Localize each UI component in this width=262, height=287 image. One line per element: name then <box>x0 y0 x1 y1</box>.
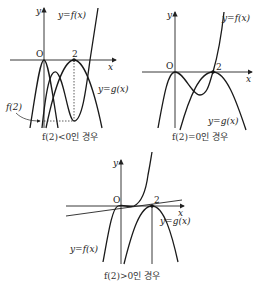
x-axis-label: x <box>246 74 251 84</box>
caption: f(2)=0인 경우 <box>172 131 228 142</box>
panel-f2-negative: y x O 2 y=f(x) y=g(x) f(2) f(2)<0인 경우 <box>5 6 129 142</box>
g-label: y=g(x) <box>207 116 239 126</box>
f-label: y=f(x) <box>221 13 251 23</box>
tangent-line <box>66 200 182 216</box>
y-axis-label: y <box>35 6 42 16</box>
tick-label-2: 2 <box>154 195 160 205</box>
tick-label-2: 2 <box>216 62 222 72</box>
tick-label-2: 2 <box>72 49 78 59</box>
g-label: y=g(x) <box>97 84 129 94</box>
panel-f2-zero: y x O 2 y=f(x) y=g(x) f(2)=0인 경우 <box>142 10 252 142</box>
panel-f2-positive: y x O 2 y=g(x) y=f(x) f(2)>0인 경우 <box>66 152 191 281</box>
origin-label: O <box>113 195 120 205</box>
caption: f(2)>0인 경우 <box>104 270 160 281</box>
g-curve <box>124 206 178 264</box>
y-axis-label: y <box>166 10 173 20</box>
origin-label: O <box>36 49 43 59</box>
f-curve <box>103 152 152 262</box>
f2-arrow <box>16 113 40 121</box>
diagram-canvas: y x O 2 y=f(x) y=g(x) f(2) f(2)<0인 경우 y … <box>0 0 262 287</box>
y-axis-label: y <box>112 158 119 168</box>
caption: f(2)<0인 경우 <box>42 131 98 142</box>
f-label: y=f(x) <box>69 244 99 254</box>
f2-label: f(2) <box>5 102 23 112</box>
g-label: y=g(x) <box>159 216 191 226</box>
point-2 <box>150 204 154 208</box>
x-axis-label: x <box>108 62 113 72</box>
point-2 <box>211 70 215 74</box>
origin-label: O <box>166 61 173 71</box>
f-label: y=f(x) <box>57 10 87 20</box>
